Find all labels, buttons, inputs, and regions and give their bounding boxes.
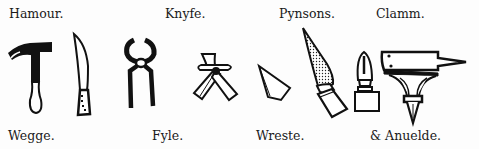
file-icon: [303, 28, 347, 117]
knife-icon: [74, 34, 90, 115]
wrest-icon: [194, 54, 237, 100]
tools-plate: Hamour. Knyfe. Pynsons. Clamm. Wegge. Fy…: [0, 0, 479, 149]
pincers-icon: [127, 40, 154, 108]
hammer-icon: [8, 42, 52, 113]
anvil-icon: [382, 52, 466, 123]
tool-drawings: [0, 0, 479, 149]
clamp-icon: [355, 52, 379, 111]
wedge-icon: [259, 66, 290, 100]
